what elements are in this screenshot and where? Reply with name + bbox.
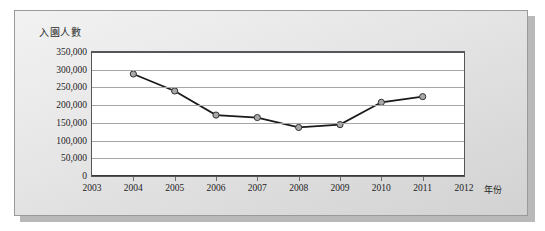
x-axis-tick-mark (340, 177, 341, 181)
x-axis-tick-mark (133, 177, 134, 181)
y-axis-tick-label: 50,000 (27, 153, 87, 163)
plot-area (91, 51, 465, 177)
x-axis-tick-labels: 2003200420052006200720082009201020112012 (15, 183, 529, 199)
series-data-point-marker (130, 71, 136, 77)
gridline (92, 158, 464, 159)
x-axis-tick-mark (175, 177, 176, 181)
x-axis-tick-label: 2007 (248, 183, 267, 193)
x-axis-tick-label: 2006 (207, 183, 226, 193)
y-axis-tick-label: 100,000 (27, 136, 87, 146)
series-data-point-marker (254, 114, 260, 120)
x-axis-tick-mark (216, 177, 217, 181)
x-axis-tick-mark (423, 177, 424, 181)
x-axis-title: 年份 (484, 183, 502, 196)
series-data-point-marker (420, 94, 426, 100)
x-axis-tick-label: 2009 (331, 183, 350, 193)
chart-screenshot: 入園人數 050,000100,000150,000200,000250,000… (0, 0, 545, 231)
y-axis-tick-labels: 050,000100,000150,000200,000250,000300,0… (23, 51, 87, 177)
y-axis-tick-label: 200,000 (27, 100, 87, 110)
x-axis-tick-label: 2008 (289, 183, 308, 193)
y-axis-tick-label: 0 (27, 171, 87, 181)
x-axis-tick-mark (299, 177, 300, 181)
x-axis-tick-label: 2010 (372, 183, 391, 193)
gridline (92, 87, 464, 88)
gridline (92, 52, 464, 53)
x-axis-tick-label: 2012 (455, 183, 474, 193)
x-axis-tick-label: 2005 (165, 183, 184, 193)
x-axis-tick-label: 2003 (83, 183, 102, 193)
y-axis-tick-label: 300,000 (27, 65, 87, 75)
gridline (92, 70, 464, 71)
x-axis-tick-mark (257, 177, 258, 181)
chart-figure-frame: 入園人數 050,000100,000150,000200,000250,000… (14, 10, 528, 216)
y-axis-tick-label: 250,000 (27, 82, 87, 92)
series-data-point-marker (213, 112, 219, 118)
series-data-point-marker (296, 124, 302, 130)
x-axis-baseline (92, 175, 464, 176)
y-axis-tick-label: 350,000 (27, 47, 87, 57)
y-axis-title: 入園人數 (39, 24, 81, 39)
gridline (92, 123, 464, 124)
x-axis-tick-label: 2011 (413, 183, 432, 193)
gridline (92, 141, 464, 142)
x-axis-tick-mark (381, 177, 382, 181)
series-data-point-marker (172, 88, 178, 94)
x-axis-tick-label: 2004 (124, 183, 143, 193)
y-axis-tick-label: 150,000 (27, 118, 87, 128)
gridline (92, 105, 464, 106)
